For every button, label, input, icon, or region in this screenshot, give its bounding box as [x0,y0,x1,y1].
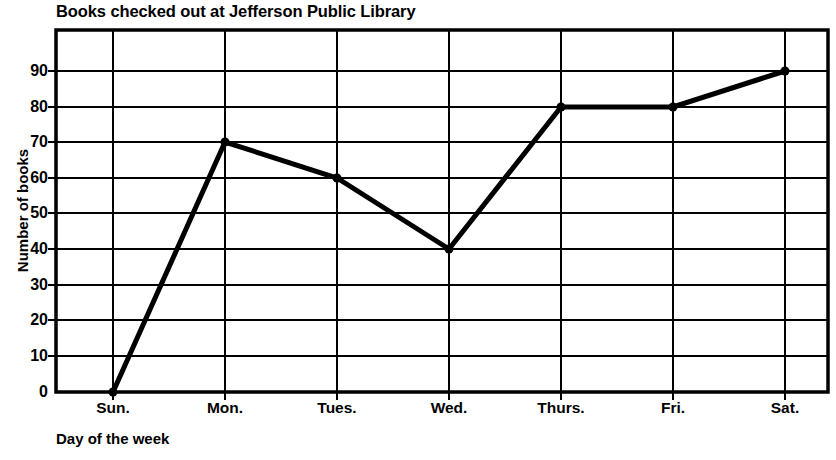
line-chart: Books checked out at Jefferson Public Li… [0,0,836,460]
y-tick-label-90: 90 [8,63,48,79]
y-tick-label-80: 80 [8,99,48,115]
plot-area [0,0,836,460]
y-axis-title: Number of books [14,121,31,301]
x-tick-label-fri: Fri. [618,400,728,416]
x-tick-label-thurs: Thurs. [506,400,616,416]
gridlines-horizontal [48,71,828,356]
x-axis-title: Day of the week [56,430,169,447]
x-tick-label-sat: Sat. [730,400,836,416]
plot-frame [56,30,828,392]
x-tick-label-mon: Mon. [170,400,280,416]
x-tick-label-wed: Wed. [394,400,504,416]
y-tick-label-0: 0 [8,384,48,400]
x-tick-label-tues: Tues. [282,400,392,416]
y-tick-label-10: 10 [8,348,48,364]
y-tick-label-20: 20 [8,312,48,328]
x-tick-label-sun: Sun. [58,400,168,416]
gridlines-vertical [113,30,785,400]
